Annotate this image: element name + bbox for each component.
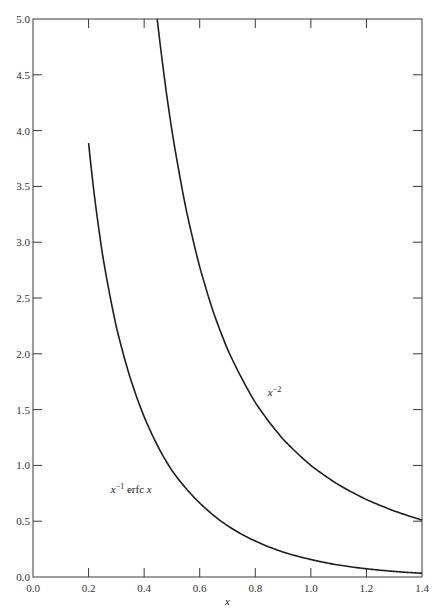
x-axis-label: x bbox=[224, 595, 230, 607]
x-tick-label: 1.4 bbox=[415, 582, 429, 594]
y-tick-label: 1.5 bbox=[16, 404, 30, 416]
chart: 0.00.20.40.60.81.01.21.40.00.51.01.52.02… bbox=[0, 0, 444, 613]
y-tick-label: 3.5 bbox=[16, 180, 30, 192]
y-tick-label: 4.5 bbox=[16, 69, 30, 81]
curve-x-inv-erfc-x bbox=[89, 143, 422, 573]
curve-label-x-inv-erfc-x: x−1 erfc x bbox=[110, 482, 152, 495]
y-tick-label: 5.0 bbox=[16, 13, 30, 25]
y-tick-label: 0.0 bbox=[16, 571, 30, 583]
curve-label-x-inv-squared: x−2 bbox=[267, 385, 281, 398]
curve-label-func: erfc bbox=[124, 483, 147, 495]
x-tick-label: 1.0 bbox=[304, 582, 318, 594]
x-tick-label: 0.8 bbox=[248, 582, 262, 594]
y-tick-label: 0.5 bbox=[16, 515, 30, 527]
curve-label-exponent: −1 bbox=[116, 482, 125, 491]
plot-frame bbox=[33, 19, 422, 577]
x-tick-label: 0.0 bbox=[26, 582, 40, 594]
y-tick-label: 2.0 bbox=[16, 348, 30, 360]
curve-x-inv-squared bbox=[157, 19, 422, 520]
x-tick-label: 0.4 bbox=[137, 582, 151, 594]
curve-label-exponent: −2 bbox=[273, 385, 282, 394]
y-tick-label: 2.5 bbox=[16, 292, 30, 304]
x-tick-label: 0.2 bbox=[82, 582, 96, 594]
x-tick-label: 1.2 bbox=[360, 582, 374, 594]
y-tick-label: 4.0 bbox=[16, 125, 30, 137]
x-tick-label: 0.6 bbox=[193, 582, 207, 594]
y-tick-label: 3.0 bbox=[16, 236, 30, 248]
y-tick-label: 1.0 bbox=[16, 459, 30, 471]
curve-label-arg: x bbox=[146, 483, 152, 495]
